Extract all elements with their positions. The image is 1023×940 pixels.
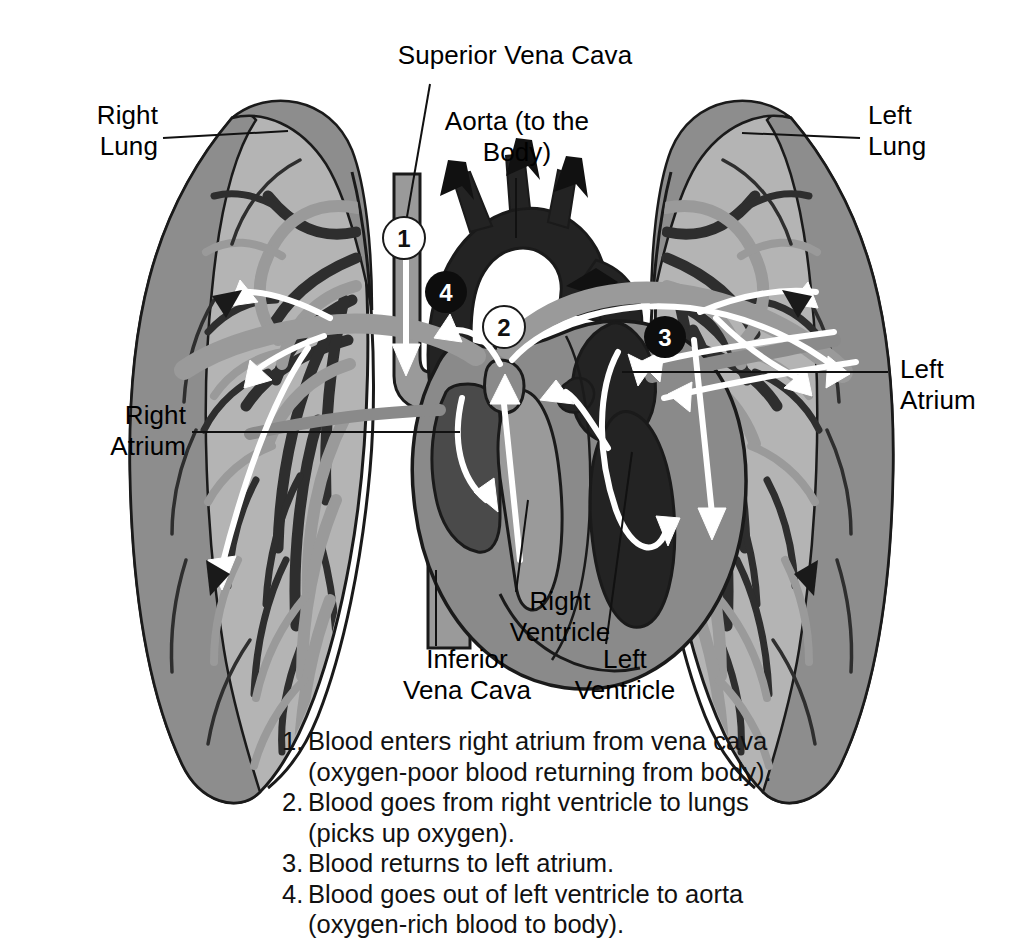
label-left-atrium: Left Atrium xyxy=(900,354,1020,416)
label-superior-vena-cava: Superior Vena Cava xyxy=(390,40,640,71)
label-right-atrium: Right Atrium xyxy=(28,400,186,462)
caption-item: 3. Blood returns to left atrium. xyxy=(282,848,902,879)
caption-number: 1. xyxy=(282,726,308,787)
caption-line-1: Blood returns to left atrium. xyxy=(308,848,902,879)
caption-text: Blood goes from right ventricle to lungs… xyxy=(308,787,902,848)
caption-line-1: Blood goes from right ventricle to lungs xyxy=(308,787,902,818)
caption-number: 2. xyxy=(282,787,308,848)
caption-line-1: Blood goes out of left ventricle to aort… xyxy=(308,879,902,910)
caption-item: 1. Blood enters right atrium from vena c… xyxy=(282,726,902,787)
circulation-steps-caption: 1. Blood enters right atrium from vena c… xyxy=(282,726,902,940)
label-aorta: Aorta (to the Body) xyxy=(432,106,602,168)
caption-item: 4. Blood goes out of left ventricle to a… xyxy=(282,879,902,940)
label-left-lung: Left Lung xyxy=(868,100,1008,162)
caption-text: Blood goes out of left ventricle to aort… xyxy=(308,879,902,940)
caption-number: 4. xyxy=(282,879,308,940)
label-left-ventricle: Left Ventricle xyxy=(540,644,710,706)
caption-number: 3. xyxy=(282,848,308,879)
label-right-lung: Right Lung xyxy=(28,100,158,162)
caption-line-2: (oxygen-poor blood returning from body). xyxy=(308,757,902,788)
caption-text: Blood returns to left atrium. xyxy=(308,848,902,879)
label-inferior-vena-cava: Inferior Vena Cava xyxy=(372,644,562,706)
caption-line-1: Blood enters right atrium from vena cava xyxy=(308,726,902,757)
caption-item: 2. Blood goes from right ventricle to lu… xyxy=(282,787,902,848)
label-right-ventricle: Right Ventricle xyxy=(470,586,650,648)
caption-line-2: (oxygen-rich blood to body). xyxy=(308,909,902,940)
caption-line-2: (picks up oxygen). xyxy=(308,818,902,849)
caption-text: Blood enters right atrium from vena cava… xyxy=(308,726,902,787)
